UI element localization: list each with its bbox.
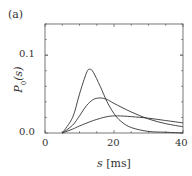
y-tick-label-0: 0.0	[19, 126, 35, 137]
plot-area	[0, 0, 192, 176]
curve-3	[62, 116, 183, 133]
x-tick-label-0: 0	[42, 137, 48, 148]
y-axis-label: P0(s)	[12, 62, 27, 98]
x-tick-label-2: 40	[175, 137, 188, 148]
curve-2	[62, 98, 183, 133]
x-tick-label-1: 20	[107, 137, 120, 148]
x-axis-label: s [ms]	[97, 157, 131, 170]
data-curves	[62, 69, 183, 133]
axis-ticks	[45, 24, 183, 133]
plot-frame	[45, 24, 183, 133]
y-tick-label-1: 0.1	[19, 48, 35, 59]
